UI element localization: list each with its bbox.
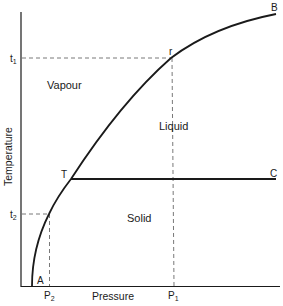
- point-c-label: C: [270, 168, 277, 179]
- point-r-label: r: [169, 46, 173, 57]
- p1-guide-line: [172, 58, 174, 286]
- region-liquid-label: Liquid: [159, 120, 188, 132]
- t2-tick-label: t2: [10, 209, 17, 221]
- phase-diagram: Vapour Liquid Solid B r T C A t1 t2 P2 P…: [0, 0, 283, 306]
- p2-tick-label: P2: [44, 290, 55, 302]
- region-vapour-label: Vapour: [47, 79, 82, 91]
- p1-tick-label: P1: [168, 290, 179, 302]
- phase-boundary-curve: [32, 14, 276, 286]
- t1-tick-label: t1: [10, 53, 17, 65]
- x-axis-title: Pressure: [92, 290, 134, 302]
- point-a-label: A: [37, 275, 44, 286]
- y-axis-title: Temperature: [2, 127, 14, 186]
- point-t-label: T: [61, 169, 67, 180]
- region-solid-label: Solid: [127, 212, 151, 224]
- point-b-label: B: [271, 2, 278, 13]
